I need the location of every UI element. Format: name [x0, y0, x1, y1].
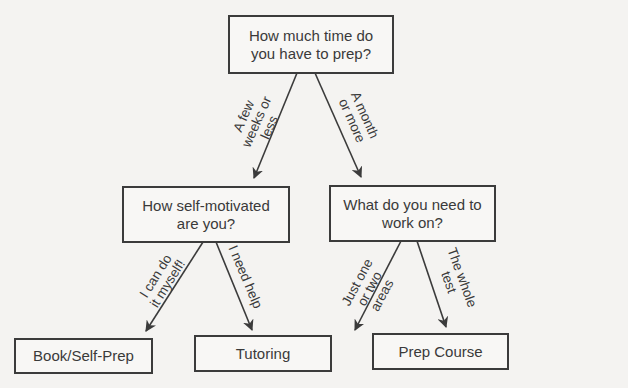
node-text: How much time do	[249, 27, 373, 44]
node-text: Tutoring	[236, 345, 290, 363]
node-text: you have to prep?	[251, 45, 371, 62]
node-self-motivated: How self-motivatedare you?	[122, 186, 290, 243]
node-book-self-prep: Book/Self-Prep	[14, 338, 153, 374]
node-text: Prep Course	[398, 343, 482, 361]
node-text: How self-motivated	[142, 197, 270, 214]
node-time-to-prep: How much time doyou have to prep?	[228, 15, 394, 74]
node-text: Book/Self-Prep	[33, 347, 134, 365]
node-text: What do you need to	[343, 196, 481, 213]
node-prep-course: Prep Course	[372, 333, 509, 370]
node-tutoring: Tutoring	[194, 335, 332, 372]
node-text: work on?	[382, 214, 443, 231]
node-text: are you?	[177, 215, 235, 232]
node-work-on: What do you need towork on?	[329, 185, 496, 242]
